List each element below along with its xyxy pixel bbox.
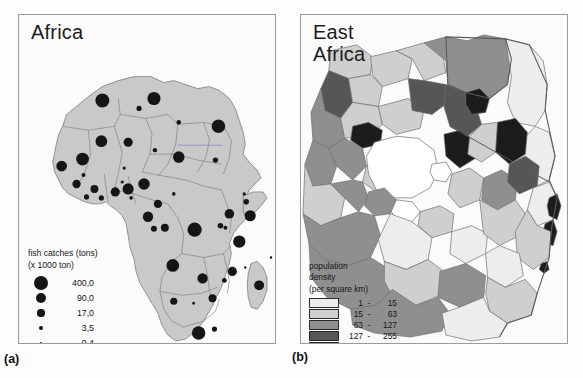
fish-catch-symbol	[154, 200, 162, 208]
legend-a-value: 400,0	[54, 278, 94, 288]
fish-catch-symbol	[212, 327, 217, 332]
fish-catch-symbol	[173, 151, 185, 163]
fish-catch-symbol	[121, 180, 124, 183]
fish-catch-symbol	[270, 256, 272, 258]
legend-a-row: 0,4	[28, 335, 98, 344]
legend-b-dash: -	[363, 309, 375, 319]
fish-catch-symbol	[111, 187, 120, 196]
legend-a-symbol	[28, 326, 54, 330]
legend-a-value: 17,0	[54, 308, 94, 318]
district	[450, 226, 488, 264]
legend-population-density: populationdensity(per square km) 1 - 15 …	[309, 261, 397, 344]
fish-catch-symbol	[172, 192, 176, 196]
legend-b-swatch	[309, 331, 339, 341]
legend-b-title-line3: (per square km)	[309, 284, 368, 294]
legend-b-row: 1 - 15	[309, 298, 397, 308]
district	[448, 168, 484, 208]
legend-b-low: 15	[345, 309, 363, 319]
legend-b-low: 63	[345, 320, 363, 330]
legend-b-swatch	[309, 309, 339, 319]
legend-a-symbol	[28, 293, 54, 303]
legend-b-dash: -	[363, 331, 375, 341]
fish-catch-symbol	[197, 273, 207, 283]
district	[505, 39, 547, 126]
fish-catch-symbol	[176, 120, 181, 125]
fish-catch-symbol	[166, 259, 179, 272]
fish-catch-symbol	[143, 212, 153, 222]
fish-catch-symbol	[244, 266, 246, 268]
fish-catch-symbol	[136, 106, 141, 111]
figure-canvas: Africa fish catches (tons)(x 1000 ton) 4…	[0, 0, 583, 378]
legend-b-dash: -	[363, 320, 375, 330]
fish-catch-symbol	[82, 173, 86, 177]
fish-catch-symbol	[123, 183, 134, 194]
legend-b-swatch	[309, 342, 339, 344]
fish-catch-symbol	[151, 226, 157, 232]
legend-a-value: 3,5	[54, 323, 94, 333]
panel-a-title: Africa	[31, 21, 83, 43]
fish-catch-symbol	[99, 195, 104, 200]
fish-catch-symbol	[56, 161, 67, 172]
fish-catch-symbol	[76, 153, 89, 166]
fish-catch-symbol	[124, 138, 133, 147]
fish-catch-symbol	[192, 302, 195, 305]
fish-catch-symbol	[213, 157, 218, 162]
fish-catch-symbol	[209, 294, 217, 302]
legend-a-row: 400,0	[28, 275, 98, 290]
legend-a-title: fish catches (tons)(x 1000 ton)	[28, 247, 98, 271]
legend-b-low: 127	[345, 331, 363, 341]
fish-catch-symbol	[187, 223, 201, 237]
fish-catch-symbol	[223, 226, 227, 230]
fish-catch-symbol	[129, 196, 133, 200]
legend-a-symbol	[28, 276, 54, 290]
legend-a-title-line2: (x 1000 ton)	[28, 260, 74, 270]
legend-b-row: 63 - 127	[309, 320, 397, 330]
fish-catch-symbol	[222, 278, 227, 283]
panel-a-caption: (a)	[4, 352, 19, 366]
legend-a-row: 17,0	[28, 305, 98, 320]
legend-a-symbol	[28, 309, 54, 316]
fish-catch-symbol	[192, 326, 205, 340]
fish-catch-symbol	[228, 267, 237, 276]
legend-a-value: 90,0	[54, 293, 94, 303]
legend-b-swatch	[309, 298, 339, 308]
fish-catch-symbol	[243, 192, 246, 195]
legend-b-row: 127 - 255	[309, 331, 397, 341]
legend-b-high: 255	[375, 331, 397, 341]
fish-catch-symbol	[84, 194, 89, 199]
fish-catch-symbol	[161, 224, 169, 232]
legend-a-row: 3,5	[28, 320, 98, 335]
legend-b-row: 15 - 63	[309, 309, 397, 319]
fish-catch-symbol	[212, 120, 225, 134]
panel-east-africa: East Africa populationdensity(per square…	[300, 14, 568, 344]
fish-catch-symbol	[245, 210, 256, 221]
legend-b-title: populationdensity(per square km)	[309, 261, 397, 295]
legend-b-title-line2: density	[309, 272, 336, 282]
lake-victoria	[367, 136, 438, 198]
legend-a-row: 90,0	[28, 290, 98, 305]
legend-fish-catches: fish catches (tons)(x 1000 ton) 400,0 90…	[28, 247, 98, 344]
legend-b-title-line1: population	[309, 261, 348, 271]
fish-catch-symbol	[218, 223, 224, 229]
legend-b-high: 127	[375, 320, 397, 330]
legend-a-value: 0,4	[54, 338, 94, 344]
panel-b-title: East Africa	[313, 21, 365, 66]
legend-b-dash: -	[363, 298, 375, 308]
fish-catch-symbol	[254, 280, 264, 290]
legend-b-low: 1	[345, 298, 363, 308]
legend-b-swatch	[309, 320, 339, 330]
fish-catch-symbol	[225, 209, 235, 219]
lake-inlet	[430, 162, 452, 182]
fish-catch-symbol	[147, 92, 160, 105]
fish-catch-symbol	[96, 135, 108, 147]
panel-b-caption: (b)	[292, 350, 308, 364]
fish-catch-symbol	[153, 148, 157, 152]
fish-catch-symbol	[243, 199, 249, 205]
fish-catch-symbol	[233, 235, 245, 247]
legend-b-row: > 255	[309, 342, 397, 344]
fish-catch-symbol	[90, 185, 98, 193]
fish-catch-symbol	[95, 94, 109, 108]
legend-a-title-line1: fish catches (tons)	[28, 248, 98, 258]
legend-a-symbol	[28, 342, 54, 344]
fish-catch-symbol	[138, 178, 150, 190]
